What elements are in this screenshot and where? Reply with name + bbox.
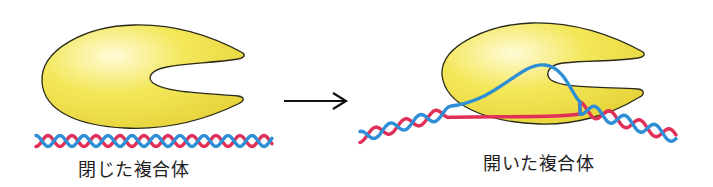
closed-complex-dna xyxy=(36,136,272,147)
closed-complex-enzyme xyxy=(42,25,244,128)
right-arrow-icon xyxy=(284,93,346,109)
closed-complex-label: 閉じた複合体 xyxy=(78,155,189,181)
open-complex-enzyme xyxy=(442,23,644,124)
open-complex-label: 開いた複合体 xyxy=(483,149,594,175)
